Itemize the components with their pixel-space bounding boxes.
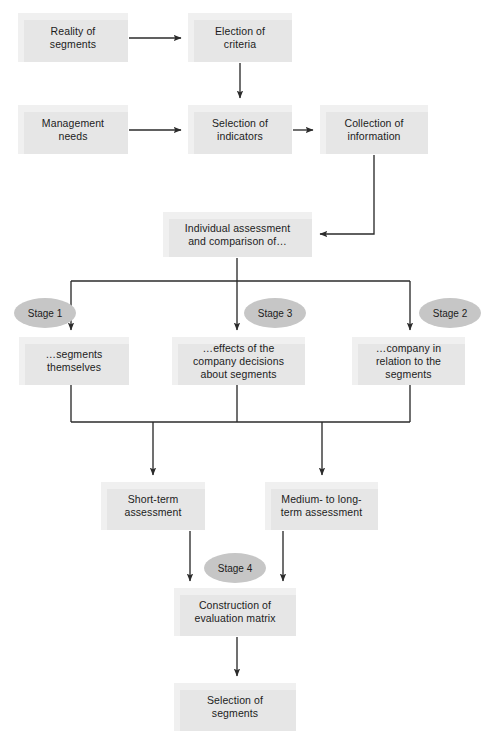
node-line-2: segments bbox=[212, 707, 258, 719]
node-label: Election of criteria bbox=[211, 25, 269, 51]
node-line-3: segments bbox=[385, 368, 431, 380]
node-line-3: about segments bbox=[200, 368, 276, 380]
node-line-2: themselves bbox=[47, 361, 101, 373]
node-selection-of-indicators[interactable]: Selection of indicators bbox=[188, 105, 292, 154]
node-line-2: information bbox=[347, 130, 400, 142]
node-medium-to-long-term-assessment[interactable]: Medium- to long- term assessment bbox=[265, 482, 378, 530]
node-individual-assessment[interactable]: Individual assessment and comparison of… bbox=[163, 212, 312, 257]
node-label: Medium- to long- term assessment bbox=[277, 493, 366, 519]
node-segments-themselves[interactable]: …segments themselves bbox=[19, 337, 129, 385]
node-line-2: evaluation matrix bbox=[194, 612, 275, 624]
node-line-2: and comparison of… bbox=[188, 235, 287, 247]
edge-collection-to-individual bbox=[320, 155, 374, 234]
node-line-1: …segments bbox=[46, 348, 103, 360]
node-label: …effects of the company decisions about … bbox=[189, 342, 288, 381]
node-line-1: Selection of bbox=[207, 694, 263, 706]
node-line-1: …company in bbox=[376, 342, 441, 354]
flowchart-canvas: Reality of segments Election of criteria… bbox=[0, 0, 483, 741]
node-line-2: needs bbox=[58, 130, 87, 142]
node-label: …company in relation to the segments bbox=[372, 342, 445, 381]
node-short-term-assessment[interactable]: Short-term assessment bbox=[101, 482, 205, 530]
node-line-2: indicators bbox=[217, 130, 263, 142]
node-line-1: …effects of the bbox=[203, 342, 275, 354]
node-line-1: Construction of bbox=[199, 599, 271, 611]
node-line-1: Collection of bbox=[344, 117, 403, 129]
node-label: Individual assessment and comparison of… bbox=[181, 222, 294, 248]
node-label: Management needs bbox=[38, 117, 108, 143]
node-collection-of-information[interactable]: Collection of information bbox=[320, 105, 428, 154]
node-label: Collection of information bbox=[340, 117, 407, 143]
node-management-needs[interactable]: Management needs bbox=[18, 105, 128, 154]
node-line-2: relation to the bbox=[376, 355, 441, 367]
node-line-2: assessment bbox=[124, 506, 181, 518]
stage-badge-label: Stage 1 bbox=[28, 308, 62, 319]
node-label: Selection of indicators bbox=[208, 117, 272, 143]
stage-badge-label: Stage 3 bbox=[258, 308, 292, 319]
node-label: …segments themselves bbox=[42, 348, 107, 374]
node-effects-of-company-decisions[interactable]: …effects of the company decisions about … bbox=[172, 337, 305, 385]
node-line-2: segments bbox=[50, 38, 96, 50]
node-line-1: Individual assessment bbox=[185, 222, 290, 234]
node-election-of-criteria[interactable]: Election of criteria bbox=[188, 13, 292, 62]
stage-badge-3[interactable]: Stage 3 bbox=[244, 298, 306, 328]
node-line-2: criteria bbox=[224, 38, 256, 50]
node-construction-of-evaluation-matrix[interactable]: Construction of evaluation matrix bbox=[174, 588, 296, 636]
stage-badge-1[interactable]: Stage 1 bbox=[14, 298, 76, 328]
node-label: Reality of segments bbox=[46, 25, 100, 51]
stage-badge-2[interactable]: Stage 2 bbox=[419, 298, 481, 328]
node-line-1: Management bbox=[42, 117, 104, 129]
node-line-1: Selection of bbox=[212, 117, 268, 129]
stage-badge-label: Stage 2 bbox=[433, 308, 467, 319]
node-line-2: term assessment bbox=[281, 506, 362, 518]
node-line-1: Election of bbox=[215, 25, 265, 37]
stage-badge-label: Stage 4 bbox=[218, 563, 252, 574]
node-line-1: Medium- to long- bbox=[281, 493, 361, 505]
node-label: Selection of segments bbox=[203, 694, 267, 720]
node-selection-of-segments[interactable]: Selection of segments bbox=[174, 683, 296, 731]
node-label: Short-term assessment bbox=[120, 493, 185, 519]
node-label: Construction of evaluation matrix bbox=[190, 599, 279, 625]
stage-badge-4[interactable]: Stage 4 bbox=[204, 553, 266, 583]
node-line-2: company decisions bbox=[193, 355, 284, 367]
node-company-in-relation-to-segments[interactable]: …company in relation to the segments bbox=[352, 337, 465, 385]
node-line-1: Reality of bbox=[51, 25, 96, 37]
node-line-1: Short-term bbox=[128, 493, 179, 505]
node-reality-of-segments[interactable]: Reality of segments bbox=[18, 13, 128, 62]
